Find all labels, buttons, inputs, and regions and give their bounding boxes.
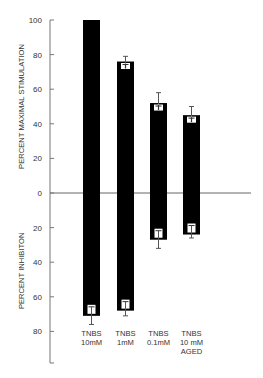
x-category-label: 10 mM xyxy=(180,338,203,347)
bar xyxy=(150,103,167,240)
y-tick-label: 80 xyxy=(33,51,42,60)
y-tick-label-zero: 0 xyxy=(38,189,43,198)
bar xyxy=(117,62,134,311)
y-tick-label: 40 xyxy=(33,120,42,129)
x-category-label: TNBS xyxy=(148,329,168,338)
x-category-label: 1mM xyxy=(117,338,134,347)
y-axis-title-bottom: PERCENT INHIBITON xyxy=(17,233,26,310)
y-tick-label: 100 xyxy=(29,16,43,25)
axis-labels: PERCENT MAXIMAL STIMULATIONPERCENT INHIB… xyxy=(17,44,203,356)
x-category-label: TNBS xyxy=(115,329,135,338)
x-category-label: TNBS xyxy=(181,329,201,338)
bar-chart: 10080604020020406080 PERCENT MAXIMAL STI… xyxy=(0,0,263,378)
bar xyxy=(83,20,100,316)
x-category-label: 10mM xyxy=(81,338,102,347)
y-axis: 10080604020020406080 xyxy=(29,16,251,363)
y-tick-label: 20 xyxy=(33,154,42,163)
y-tick-label: 60 xyxy=(33,85,42,94)
x-category-label: 0.1mM xyxy=(147,338,170,347)
y-tick-label: 20 xyxy=(33,224,42,233)
y-tick-label: 40 xyxy=(33,258,42,267)
x-category-label: AGED xyxy=(181,347,203,356)
y-axis-title-top: PERCENT MAXIMAL STIMULATION xyxy=(17,44,26,169)
x-category-label: TNBS xyxy=(81,329,101,338)
bars xyxy=(83,20,200,324)
bar xyxy=(183,115,200,234)
y-tick-label: 80 xyxy=(33,327,42,336)
y-tick-label: 60 xyxy=(33,293,42,302)
